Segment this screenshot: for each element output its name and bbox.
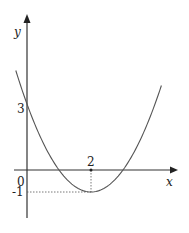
vertex-y-label: -1 [12, 185, 24, 199]
parabola-curve [16, 71, 162, 193]
vertex-x-label: 2 [87, 155, 95, 169]
y-axis-label: y [13, 25, 21, 39]
y-intercept-label: 3 [17, 102, 25, 116]
x-axis-label: x [166, 175, 173, 189]
x-axis-arrow-icon [170, 167, 178, 174]
y-axis-arrow-icon [24, 14, 31, 23]
parabola-graph: y x 0 3 2 -1 [0, 0, 189, 233]
